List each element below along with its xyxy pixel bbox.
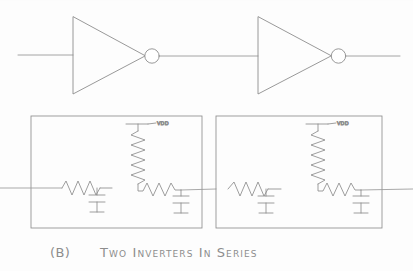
box2-driver-resistor: [318, 183, 361, 196]
caption-text: Two Inverters In Series: [100, 245, 258, 260]
figure-caption: (B) Two Inverters In Series: [0, 243, 413, 271]
inverter-2-bubble: [331, 49, 345, 63]
inverter-2-triangle: [258, 17, 331, 94]
rc-model-box-2: VDD: [216, 116, 413, 228]
box1-vdd-label: VDD: [157, 120, 169, 126]
box2-output-wire: [361, 189, 413, 190]
inverter-1-bubble: [145, 49, 159, 63]
box1-output-wire: [181, 189, 216, 190]
inverter-chain: [18, 17, 400, 94]
box1-driver-resistor: [138, 183, 181, 196]
rc-model-box-2-border: [216, 116, 382, 228]
rc-model-box-1-border: [31, 116, 202, 228]
box2-vdd-label: VDD: [337, 120, 349, 126]
box2-pullup-resistor: [311, 131, 325, 184]
caption-label: (B): [50, 245, 70, 260]
box2-vdd-tick: [328, 123, 336, 124]
figure-root: VDD: [0, 0, 413, 271]
inverter-1-triangle: [73, 17, 145, 94]
rc-model-box-1: VDD: [0, 116, 216, 228]
box1-vdd-tick: [148, 123, 156, 124]
box1-pullup-resistor: [131, 131, 145, 184]
box1-series-resistor: [62, 181, 100, 195]
circuit-diagram: VDD: [0, 0, 413, 271]
box2-series-resistor: [228, 182, 268, 196]
